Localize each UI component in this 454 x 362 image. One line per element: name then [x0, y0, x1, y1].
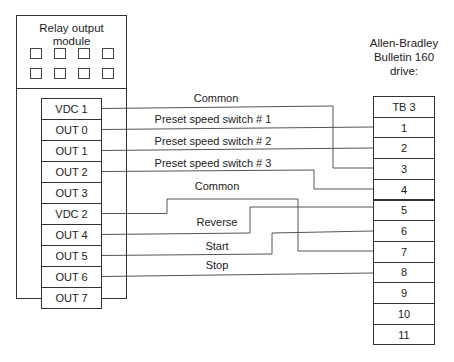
- drive-terminal-1: 1: [373, 117, 435, 139]
- drive-terminal-header: TB 3: [373, 96, 435, 118]
- indicator-led: [30, 68, 42, 79]
- drive-terminal-8: 8: [373, 262, 435, 284]
- drive-terminal-5: 5: [373, 200, 435, 222]
- wire-label-preset-speed-1: Preset speed switch # 1: [155, 113, 272, 125]
- wire-out0-to-tb1: [101, 127, 373, 130]
- module-terminal-out0: OUT 0: [41, 119, 102, 141]
- module-terminal-out6: OUT 6: [41, 266, 102, 288]
- drive-terminal-3: 3: [373, 158, 435, 180]
- module-divider: [16, 88, 127, 89]
- drive-terminal-9: 9: [373, 282, 435, 304]
- module-title-line1: Relay output: [16, 22, 127, 35]
- drive-title-line2: Bulletin 160: [356, 50, 452, 64]
- module-terminal-out3: OUT 3: [41, 182, 102, 204]
- module-terminal-out2: OUT 2: [41, 161, 102, 183]
- indicator-led: [78, 48, 90, 59]
- wire-label-start: Start: [205, 240, 228, 252]
- module-terminal-out7: OUT 7: [41, 287, 102, 309]
- indicator-led: [78, 68, 90, 79]
- drive-terminal-7: 7: [373, 241, 435, 263]
- module-terminal-out1: OUT 1: [41, 140, 102, 162]
- module-terminal-out5: OUT 5: [41, 245, 102, 267]
- indicator-led: [102, 48, 114, 59]
- wire-out5-to-tb6: [101, 231, 373, 256]
- indicator-led: [54, 68, 66, 79]
- module-terminal-vdc1: VDC 1: [41, 98, 102, 120]
- drive-terminal-10: 10: [373, 303, 435, 325]
- wire-label-preset-speed-2: Preset speed switch # 2: [155, 135, 272, 147]
- wire-label-reverse: Reverse: [197, 216, 238, 228]
- module-title: Relay output module: [16, 22, 127, 48]
- indicator-led: [30, 48, 42, 59]
- module-terminal-vdc2: VDC 2: [41, 203, 102, 225]
- wire-label-common-1: Common: [194, 92, 239, 104]
- module-terminal-out4: OUT 4: [41, 224, 102, 246]
- drive-terminal-4: 4: [373, 179, 435, 201]
- drive-terminal-6: 6: [373, 220, 435, 242]
- module-title-line2: module: [16, 35, 127, 48]
- wire-out6-to-tb8: [101, 273, 373, 277]
- wire-label-common-2: Common: [195, 180, 240, 192]
- drive-title: Allen-Bradley Bulletin 160 drive:: [356, 36, 452, 78]
- drive-terminal-2: 2: [373, 137, 435, 159]
- wire-out1-to-tb2: [101, 148, 373, 151]
- drive-title-line1: Allen-Bradley: [356, 36, 452, 50]
- indicator-led: [54, 48, 66, 59]
- indicator-led: [102, 68, 114, 79]
- drive-title-line3: drive:: [356, 64, 452, 78]
- wire-label-stop: Stop: [206, 259, 229, 271]
- wire-label-preset-speed-3: Preset speed switch # 3: [155, 157, 272, 169]
- drive-terminal-11: 11: [373, 324, 435, 346]
